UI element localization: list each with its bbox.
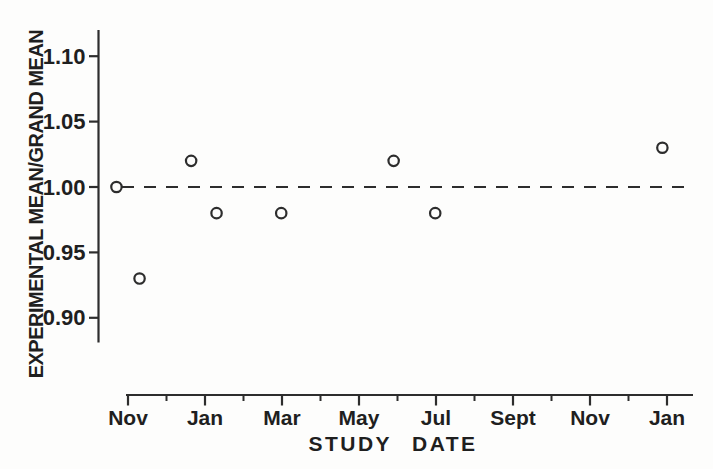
x-tick-label: Nov [108, 406, 148, 429]
x-tick-label: Mar [263, 406, 300, 429]
y-axis-title: EXPERIMENTAL MEAN/GRAND MEAN [25, 30, 48, 379]
x-tick-label: Jul [421, 406, 451, 429]
data-point [186, 156, 196, 166]
x-tick-label: Jan [187, 406, 223, 429]
x-tick-label: Nov [570, 406, 610, 429]
scatter-plot-page: 1.101.051.000.950.90NovJanMarMayJulSeptN… [0, 0, 713, 469]
y-tick-label: 0.95 [43, 240, 86, 265]
x-axis-title: STUDY DATE [308, 432, 477, 456]
data-point [276, 208, 286, 218]
scatter-plot-canvas: 1.101.051.000.950.90NovJanMarMayJulSeptN… [0, 0, 713, 469]
data-point [111, 182, 121, 192]
data-point [134, 273, 144, 283]
data-point [388, 156, 398, 166]
x-tick-label: Sept [490, 406, 536, 429]
y-tick-label: 1.05 [43, 109, 86, 134]
data-point [657, 143, 667, 153]
y-tick-label: 0.90 [43, 305, 86, 330]
x-tick-label: May [339, 406, 380, 429]
data-point [430, 208, 440, 218]
data-point [211, 208, 221, 218]
y-tick-label: 1.10 [43, 44, 86, 69]
x-tick-label: Jan [649, 406, 685, 429]
y-tick-label: 1.00 [43, 175, 86, 200]
